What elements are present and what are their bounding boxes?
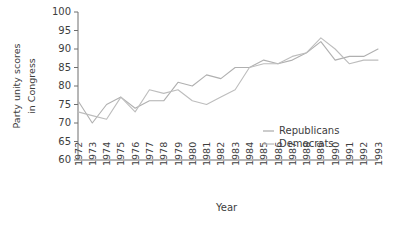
x-tick-label: 1976	[130, 142, 141, 166]
x-tick-label: 1993	[373, 142, 384, 166]
x-tick-label: 1973	[87, 142, 98, 166]
y-tick-label: 70	[58, 117, 71, 128]
series-line-democrats	[78, 38, 378, 119]
line-chart: 6065707580859095100 19721973197419751976…	[0, 0, 403, 225]
x-axis-ticks: 1972197319741975197619771978197919801981…	[73, 142, 384, 166]
data-series-group	[78, 38, 378, 123]
x-tick-label: 1983	[230, 142, 241, 166]
x-tick-label: 1979	[173, 142, 184, 166]
y-tick-label: 100	[52, 6, 71, 17]
x-tick-label: 1981	[201, 142, 212, 166]
y-tick-label: 60	[58, 154, 71, 165]
x-tick-label: 1977	[144, 142, 155, 166]
y-axis-title-line2: in Congress	[26, 58, 37, 114]
x-tick-label: 1991	[344, 142, 355, 166]
x-tick-label: 1980	[187, 142, 198, 166]
y-tick-label: 75	[58, 99, 71, 110]
chart-container: 6065707580859095100 19721973197419751976…	[0, 0, 403, 225]
series-line-republicans	[78, 42, 378, 123]
legend-label-democrats: Democrats	[279, 138, 334, 149]
y-tick-label: 80	[58, 80, 71, 91]
x-axis-title: Year	[215, 202, 238, 213]
x-tick-label: 1982	[215, 142, 226, 166]
x-tick-label: 1975	[115, 142, 126, 166]
y-axis-ticks: 6065707580859095100	[52, 6, 78, 165]
y-tick-label: 85	[58, 62, 71, 73]
x-tick-label: 1974	[101, 142, 112, 166]
x-tick-label: 1978	[158, 142, 169, 166]
x-tick-label: 1985	[258, 142, 269, 166]
y-axis-title-line1: Party unity scores	[11, 43, 22, 128]
y-tick-label: 65	[58, 136, 71, 147]
x-tick-label: 1984	[244, 142, 255, 166]
y-tick-label: 95	[58, 25, 71, 36]
legend-label-republicans: Republicans	[279, 125, 339, 136]
y-tick-label: 90	[58, 43, 71, 54]
x-tick-label: 1992	[358, 142, 369, 166]
